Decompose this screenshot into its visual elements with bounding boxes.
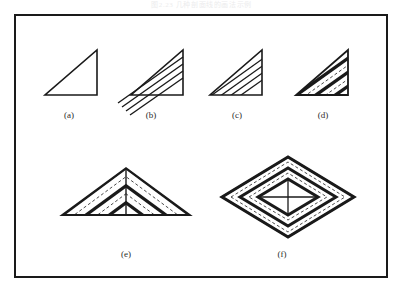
faint-header-text: 图2.23 几种剖面线的画法示例 xyxy=(0,0,403,11)
caption-b: (b) xyxy=(131,110,171,120)
caption-c: (c) xyxy=(217,110,257,120)
caption-e: (e) xyxy=(106,249,146,259)
caption-f: (f) xyxy=(262,249,302,259)
caption-d: (d) xyxy=(303,110,343,120)
caption-a: (a) xyxy=(49,110,89,120)
figure-root: 图2.23 几种剖面线的画法示例 xyxy=(0,0,403,292)
figure-frame xyxy=(14,14,388,278)
